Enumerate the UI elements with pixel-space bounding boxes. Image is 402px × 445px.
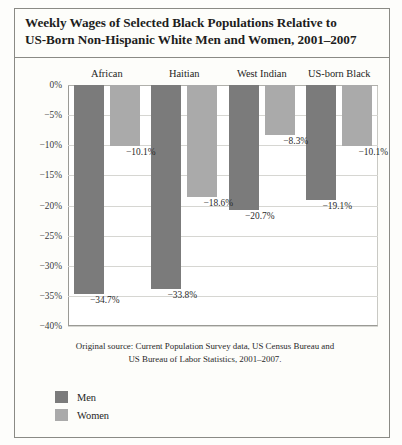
y-axis-tick-label: −15% — [40, 170, 62, 180]
x-axis-group-label: African — [91, 68, 123, 79]
x-axis-group-label: US-born Black — [308, 68, 371, 79]
y-axis-tick-label: −40% — [40, 321, 62, 331]
y-axis-tick-label: −20% — [40, 201, 62, 211]
y-axis-tick-label: 0% — [50, 80, 63, 90]
bar-men-african — [74, 85, 104, 294]
bar-value-label: −34.7% — [90, 295, 120, 305]
bar-value-label: −19.1% — [322, 201, 352, 211]
chart-plot-area: 0%−5%−10%−15%−20%−25%−30%−35%−40% Africa… — [68, 85, 378, 326]
bar-value-label: −20.7% — [245, 211, 275, 221]
bar-value-label: −8.3% — [283, 136, 308, 146]
y-axis-tick-label: −35% — [40, 291, 62, 301]
bar-value-label: −10.1% — [126, 147, 156, 157]
y-axis-tick-label: −25% — [40, 231, 62, 241]
legend-label-men: Men — [77, 392, 96, 403]
figure-container: Weekly Wages of Selected Black Populatio… — [0, 0, 402, 445]
bar-men-haitian — [151, 85, 181, 289]
x-axis-group-label: Haitian — [169, 68, 200, 79]
bar-value-label: −33.8% — [167, 290, 197, 300]
y-axis-tick-label: −10% — [40, 140, 62, 150]
y-axis-tick-label: −30% — [40, 261, 62, 271]
legend-item-women: Women — [55, 406, 109, 424]
chart-legend: Men Women — [55, 388, 109, 424]
bar-men-west-indian — [229, 85, 259, 210]
source-note: Original source: Current Population Surv… — [40, 340, 370, 365]
bar-men-us-born-black — [306, 85, 336, 200]
source-note-line-1: Original source: Current Population Surv… — [40, 340, 370, 353]
bar-women-west-indian — [265, 85, 295, 135]
legend-label-women: Women — [77, 410, 109, 421]
bar-women-haitian — [187, 85, 217, 197]
legend-item-men: Men — [55, 388, 109, 406]
bar-women-african — [110, 85, 140, 146]
legend-swatch-men — [55, 391, 68, 403]
gridline — [68, 236, 378, 237]
figure-title: Weekly Wages of Selected Black Populatio… — [25, 14, 381, 48]
bar-women-us-born-black — [342, 85, 372, 146]
y-axis-tick-label: −5% — [44, 110, 62, 120]
bar-value-label: −18.6% — [203, 198, 233, 208]
page-title-line-1: Weekly Wages of Selected Black Populatio… — [25, 14, 381, 31]
gridline — [68, 266, 378, 267]
bar-value-label: −10.1% — [358, 147, 388, 157]
title-divider — [15, 57, 389, 58]
legend-swatch-women — [55, 409, 68, 421]
source-note-line-2: US Bureau of Labor Statistics, 2001–2007… — [40, 353, 370, 366]
page-title-line-2: US-Born Non-Hispanic White Men and Women… — [25, 31, 381, 48]
x-axis-group-label: West Indian — [237, 68, 287, 79]
gridline — [68, 326, 378, 327]
